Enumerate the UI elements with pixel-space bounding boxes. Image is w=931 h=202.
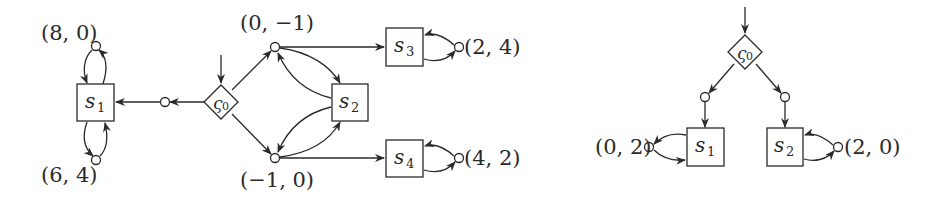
payoff-label-right-s1: (0, 2) [595,135,651,159]
edge-top-to-s1 [84,50,92,83]
edge-s2-loop-out [804,151,834,160]
edge-s1-to-top [99,50,106,84]
state-subscript: 4 [406,156,414,171]
payoff-label-s3: (2, 4) [464,35,520,59]
edge-upper-to-s2 [280,48,340,83]
right-game: ς 0 s 1 s 2 (0, 2) (2, 0) [595,7,900,166]
payoff-node-right-s2 [834,143,843,152]
edge-s0-to-right-choice [756,64,781,93]
choice-node-lower [271,154,280,163]
state-name: s [774,133,784,157]
edge-bottom-to-s1 [100,123,107,156]
state-name: s [394,33,404,57]
initial-subscript: 0 [222,100,229,113]
edge-s3-loop-out [424,51,455,60]
state-subscript: 2 [786,144,794,159]
edge-s2-to-lower [278,107,331,152]
left-game: ς 0 s 1 s 2 s 3 s 4 (8, 0) (6, 4) (0, −1… [41,11,520,192]
choice-node-right-right [781,93,790,102]
edge-s0-to-upper [232,51,271,90]
state-subscript: 2 [351,100,359,115]
state-s1-left: s 1 [77,84,114,121]
choice-node-upper [271,43,280,52]
payoff-label-right-s2: (2, 0) [844,135,900,159]
payoff-label-s1-top: (8, 0) [41,21,97,45]
state-subscript: 1 [97,100,105,115]
payoff-label-s1-bottom: (6, 4) [41,163,97,187]
payoff-node-s4 [455,154,464,163]
state-s2-right: s 2 [767,128,803,166]
state-name: s [394,145,404,169]
state-s1-right: s 1 [687,128,724,166]
state-subscript: 3 [406,44,414,59]
state-name: s [85,89,95,113]
state-name: s [695,133,705,157]
state-name: s [339,89,349,113]
payoff-label-lower: (−1, 0) [240,168,314,192]
choice-node-right-left [701,93,710,102]
edge-s0-to-left-choice [709,64,734,93]
payoff-label-upper: (0, −1) [240,11,314,35]
state-subscript: 1 [707,144,715,159]
edge-s1-to-bottom [84,122,93,156]
initial-subscript: 0 [746,50,753,63]
edge-s2-loop-back [805,134,833,145]
edge-s4-loop-out [424,162,455,171]
payoff-node-s3 [455,43,464,52]
edge-s1-loop-back [654,150,685,160]
state-s4: s 4 [386,140,423,177]
state-s3: s 3 [386,28,423,66]
initial-state-right: ς 0 [728,35,762,69]
edge-s2-to-upper [278,53,331,98]
payoff-label-s4: (4, 2) [464,146,520,170]
state-s2-left: s 2 [332,84,368,121]
game-diagrams: ς 0 s 1 s 2 s 3 s 4 (8, 0) (6, 4) (0, −1… [0,0,931,202]
edge-s3-loop-back [425,34,454,45]
edge-s4-loop-back [425,145,454,156]
edge-lower-to-s2 [280,122,340,157]
edge-s1-loop-out [654,134,686,144]
initial-state-left: ς 0 [204,85,238,119]
choice-node-left [161,98,170,107]
edge-s0-to-lower [232,114,271,154]
